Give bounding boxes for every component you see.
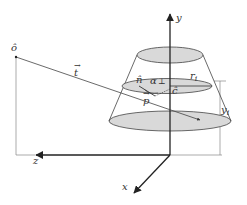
center-label: ĉ	[172, 85, 178, 96]
x-axis-label: x	[122, 181, 128, 192]
y-axis-label: y	[175, 12, 182, 23]
x-axis	[134, 155, 170, 193]
perp-label: ⊥	[158, 77, 166, 86]
point-arrow-glyph: →	[143, 89, 150, 98]
origin-point-dot	[15, 56, 17, 58]
ray-t-arrow-glyph: →	[74, 61, 81, 70]
alpha-label: α	[150, 75, 157, 86]
origin-point-label: ô	[11, 42, 17, 53]
cone-diagram: ô t → n̂ α ⊥ ĉ p → ri yi y z x	[0, 0, 247, 205]
z-axis-label: z	[32, 155, 39, 166]
height-label: yi	[220, 104, 230, 117]
normal-label: n̂	[136, 74, 142, 85]
